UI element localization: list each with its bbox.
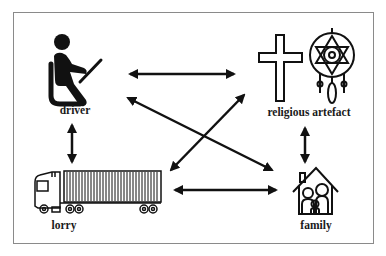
driver-icon <box>51 34 101 106</box>
religious-artefact-label: religious artefact <box>254 106 364 118</box>
arrow-driver-family <box>128 98 272 170</box>
diagram-canvas <box>0 0 386 256</box>
family-house-icon <box>293 168 338 214</box>
arrows <box>72 74 305 190</box>
family-label: family <box>296 219 336 231</box>
cross-icon <box>259 35 302 101</box>
dreamcatcher-icon <box>310 28 354 103</box>
arrow-lorry-religious-artefact <box>171 95 244 170</box>
lorry-label: lorry <box>44 219 84 231</box>
driver-label: driver <box>50 104 100 116</box>
lorry-icon <box>35 171 161 213</box>
